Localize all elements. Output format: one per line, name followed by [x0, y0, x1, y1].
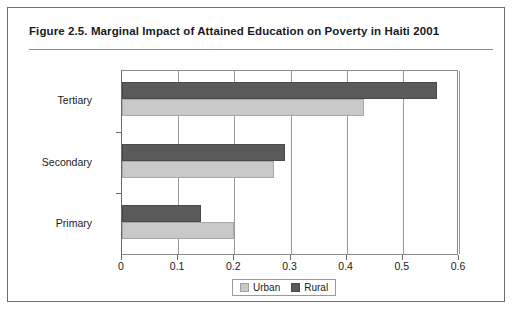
figure-frame: Figure 2.5. Marginal Impact of Attained … — [7, 7, 505, 302]
bar-rural — [122, 82, 437, 99]
bar-rural — [122, 144, 285, 161]
x-tick-label: 0.5 — [382, 260, 422, 272]
title-divider — [29, 49, 493, 50]
legend-swatch-urban — [240, 283, 249, 292]
legend-entry: Urban — [240, 282, 280, 293]
bar-urban — [122, 161, 274, 178]
bar-group — [122, 133, 457, 195]
category-label: Tertiary — [0, 94, 92, 106]
x-tick-label: 0 — [101, 260, 141, 272]
bar-group — [122, 71, 457, 133]
bar-urban — [122, 99, 364, 116]
x-tick-label: 0.1 — [157, 260, 197, 272]
legend-label: Rural — [304, 282, 328, 293]
gridline — [459, 71, 460, 254]
category-label: Secondary — [0, 156, 92, 168]
y-tickmark — [116, 193, 121, 194]
plot-area — [121, 70, 458, 255]
legend-swatch-rural — [291, 283, 300, 292]
legend-label: Urban — [253, 282, 280, 293]
x-tick-label: 0.2 — [213, 260, 253, 272]
category-label: Primary — [0, 217, 92, 229]
bar-group — [122, 194, 457, 256]
y-tickmark — [116, 132, 121, 133]
chart-legend: UrbanRural — [232, 279, 336, 296]
x-tick-label: 0.6 — [438, 260, 478, 272]
x-tick-label: 0.3 — [270, 260, 310, 272]
figure-title: Figure 2.5. Marginal Impact of Attained … — [29, 25, 489, 37]
legend-entry: Rural — [291, 282, 328, 293]
bar-rural — [122, 205, 201, 222]
x-tick-label: 0.4 — [326, 260, 366, 272]
bar-urban — [122, 222, 234, 239]
